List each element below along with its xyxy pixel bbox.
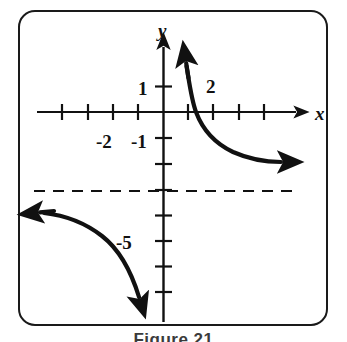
graph-plot xyxy=(0,0,347,342)
y-axis xyxy=(155,47,172,322)
x-tick-label-minus2: -2 xyxy=(96,132,112,151)
y-axis-label: y xyxy=(158,21,166,40)
y-tick-label-minus5: -5 xyxy=(116,233,132,252)
curve-lower-left-arrow-head xyxy=(40,211,54,212)
figure-caption: Figure 21 xyxy=(0,330,347,342)
curve-upper-right-arrow-head xyxy=(186,63,188,78)
figure-container: y x 1 -5 -2 -1 2 Figure 21 xyxy=(0,0,347,342)
x-tick-label-minus1: -1 xyxy=(131,132,147,151)
x-axis-label: x xyxy=(315,104,325,123)
curve-upper-right-branch xyxy=(187,66,282,162)
x-axis xyxy=(37,104,296,120)
x-tick-label-2: 2 xyxy=(206,77,216,96)
y-tick-label-1: 1 xyxy=(138,79,148,98)
curve-lower-left-branch xyxy=(44,213,139,297)
